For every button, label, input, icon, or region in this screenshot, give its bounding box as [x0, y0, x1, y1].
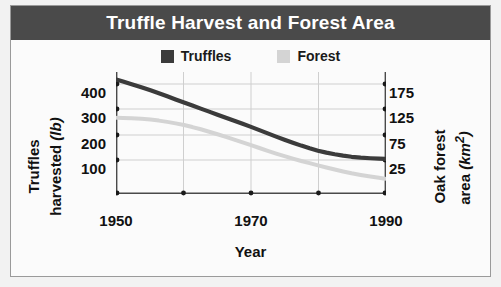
y-axis-right-title-text: area [456, 170, 473, 205]
y-axis-left-tick-200: 200 [62, 135, 106, 152]
tick-dot-x-1980 [316, 191, 321, 196]
y-axis-right-tick-25: 25 [389, 160, 433, 177]
chart-canvas [116, 72, 386, 202]
x-axis-title: Year [11, 243, 490, 260]
tick-dot-x-1950 [116, 191, 119, 196]
x-axis-tick-1990: 1990 [351, 212, 421, 229]
legend-swatch-truffles-icon [161, 50, 174, 63]
y-axis-left-title-line1: Truffles [25, 107, 42, 227]
tick-dot-x-1960 [181, 191, 186, 196]
tick-dot-x-1990 [383, 191, 386, 196]
x-axis-tick-1950: 1950 [81, 212, 151, 229]
y-axis-right-unit: (km2) [456, 131, 473, 170]
y-axis-left-title-line2: harvested (lb) [47, 107, 64, 227]
tick-dot-right-175 [383, 82, 386, 87]
plot-area [116, 72, 386, 202]
y-axis-right-tick-175: 175 [389, 84, 433, 101]
y-axis-right-tick-75: 75 [389, 135, 433, 152]
legend-swatch-forest-icon [277, 50, 290, 63]
chart-figure: Truffle Harvest and Forest Area Truffles… [0, 0, 501, 287]
y-axis-left-tick-400: 400 [62, 84, 106, 101]
chart-legend: Truffles Forest [11, 48, 490, 64]
page-title: Truffle Harvest and Forest Area [106, 12, 394, 34]
y-axis-left-tick-300: 300 [62, 109, 106, 126]
tick-dot-left-200 [116, 133, 119, 138]
y-axis-right-unit-close: ) [456, 131, 473, 136]
chart-title-bar: Truffle Harvest and Forest Area [11, 6, 490, 40]
y-axis-right-tick-125: 125 [389, 109, 433, 126]
tick-dot-left-100 [116, 158, 119, 163]
y-axis-right-unit-base: (km [456, 143, 473, 170]
tick-dot-x-1970 [249, 191, 254, 196]
tick-dot-right-125 [383, 107, 386, 112]
legend-item-forest: Forest [277, 48, 340, 64]
tick-dot-left-300 [116, 107, 119, 112]
x-axis-tick-1970: 1970 [216, 212, 286, 229]
y-axis-left-unit: (lb) [47, 117, 64, 140]
y-axis-left-tick-100: 100 [62, 160, 106, 177]
legend-item-truffles: Truffles [161, 48, 232, 64]
legend-label-forest: Forest [297, 48, 340, 64]
y-axis-right-title-line1: Oak forest [431, 107, 448, 227]
y-axis-right-unit-exponent: 2 [453, 136, 467, 143]
legend-label-truffles: Truffles [181, 48, 232, 64]
plot-card: Truffles Forest Truffles harvested (lb) … [11, 40, 490, 276]
y-axis-left-title-text: harvested [47, 141, 64, 216]
tick-dot-right-75 [383, 133, 386, 138]
y-axis-right-title-line2: area (km2) [453, 108, 473, 228]
